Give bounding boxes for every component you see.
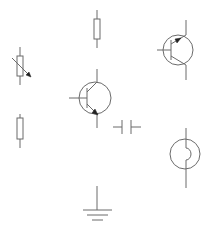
lamp-symbol[interactable] [170,128,200,188]
emitter-arrow-icon [175,38,181,43]
schematic-canvas [0,0,216,239]
resistor-lower-symbol[interactable] [17,114,23,148]
variable-resistor-symbol[interactable] [12,47,31,85]
capacitor-symbol[interactable] [113,120,141,134]
pnp-transistor-symbol[interactable] [157,20,193,80]
resistor-top-symbol[interactable] [94,10,100,48]
ground-symbol[interactable] [83,186,112,220]
npn-transistor-symbol[interactable] [69,69,111,128]
